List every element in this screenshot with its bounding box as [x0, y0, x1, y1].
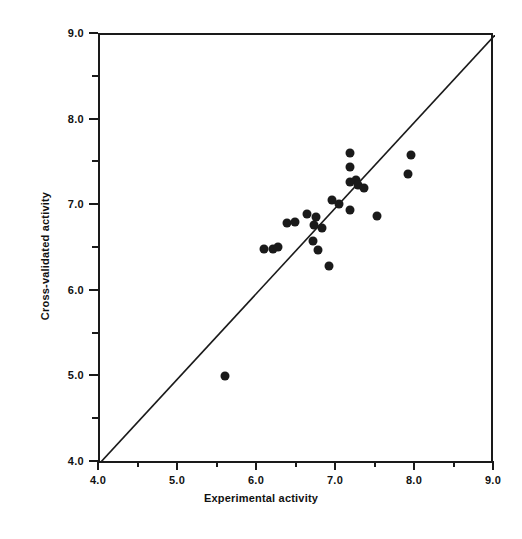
data-point: [407, 150, 416, 159]
scatter-plot-figure: 4.05.06.07.08.09.04.05.06.07.08.09.0 Exp…: [0, 0, 522, 539]
data-point: [346, 205, 355, 214]
data-point: [220, 371, 229, 380]
y-tick-major: [89, 374, 98, 376]
y-tick-label: 9.0: [56, 27, 84, 39]
data-point: [325, 262, 334, 271]
x-tick-label: 5.0: [169, 474, 185, 486]
y-tick-label: 7.0: [56, 198, 84, 210]
y-tick-major: [89, 32, 98, 34]
identity-line: [100, 35, 495, 463]
y-axis-label: Cross-validated activity: [39, 192, 51, 320]
data-point: [314, 245, 323, 254]
y-tick-major: [89, 460, 98, 462]
data-point: [260, 245, 269, 254]
data-point: [302, 209, 311, 218]
x-tick-label: 7.0: [327, 474, 343, 486]
y-tick-label: 6.0: [56, 284, 84, 296]
y-tick-major: [89, 118, 98, 120]
y-tick-label: 4.0: [56, 455, 84, 467]
y-tick-major: [89, 289, 98, 291]
data-point: [346, 149, 355, 158]
y-tick-major: [89, 203, 98, 205]
y-tick-label: 8.0: [56, 113, 84, 125]
x-tick-major: [97, 461, 99, 470]
data-point: [359, 184, 368, 193]
x-tick-label: 8.0: [406, 474, 422, 486]
data-point: [345, 178, 354, 187]
plot-area: [98, 33, 493, 461]
data-point: [404, 169, 413, 178]
data-point: [372, 212, 381, 221]
y-tick-label: 5.0: [56, 369, 84, 381]
x-tick-label: 4.0: [90, 474, 106, 486]
data-point: [273, 243, 282, 252]
x-tick-label: 6.0: [248, 474, 264, 486]
y-axis-label-wrapper: Cross-validated activity: [35, 126, 53, 386]
data-point: [334, 200, 343, 209]
data-point: [317, 224, 326, 233]
data-point: [291, 218, 300, 227]
x-axis-label: Experimental activity: [0, 492, 522, 504]
data-point: [345, 162, 354, 171]
x-tick-label: 9.0: [485, 474, 501, 486]
